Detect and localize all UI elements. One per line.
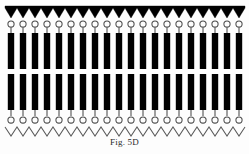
tail-bar xyxy=(128,33,134,69)
tail-bar xyxy=(188,33,194,69)
head-circle xyxy=(32,21,38,27)
head-circle xyxy=(152,117,158,123)
tail-bar xyxy=(92,33,98,69)
head-circle xyxy=(212,117,218,123)
tail-bar xyxy=(236,33,242,69)
tail-bar xyxy=(128,74,134,110)
tail-bar xyxy=(164,33,170,69)
tail-bar xyxy=(116,74,122,110)
tail-bar xyxy=(80,74,86,110)
tail-bar xyxy=(104,33,110,69)
head-circle xyxy=(116,117,122,123)
upper-bar-row xyxy=(8,33,242,69)
head-circle xyxy=(224,117,230,123)
tail-bar xyxy=(152,74,158,110)
bottom-zigzag-line xyxy=(5,127,245,136)
head-circle xyxy=(164,117,170,123)
top-circle-row xyxy=(8,21,242,27)
tail-bar xyxy=(68,33,74,69)
head-circle xyxy=(20,21,26,27)
head-circle xyxy=(116,21,122,27)
head-circle xyxy=(128,21,134,27)
top-stem-row xyxy=(11,27,239,33)
tail-bar xyxy=(176,33,182,69)
tail-bar xyxy=(8,74,14,110)
head-circle xyxy=(68,117,74,123)
lower-bar-row xyxy=(8,74,242,110)
figure-container: Fig. 5D xyxy=(0,0,249,154)
tail-bar xyxy=(68,74,74,110)
tail-bar xyxy=(92,74,98,110)
head-circle xyxy=(8,117,14,123)
head-circle xyxy=(140,21,146,27)
head-circle xyxy=(104,21,110,27)
head-circle xyxy=(44,117,50,123)
tail-bar xyxy=(140,33,146,69)
tail-bar xyxy=(224,74,230,110)
tail-bar xyxy=(212,33,218,69)
tail-bar xyxy=(20,74,26,110)
head-circle xyxy=(236,117,242,123)
head-circle xyxy=(164,21,170,27)
head-circle xyxy=(92,21,98,27)
tail-bar xyxy=(164,74,170,110)
tail-bar xyxy=(56,33,62,69)
tail-bar xyxy=(200,74,206,110)
tail-bar xyxy=(212,74,218,110)
tail-bar xyxy=(152,33,158,69)
tail-bar xyxy=(44,33,50,69)
tail-bar xyxy=(140,74,146,110)
tail-bar xyxy=(32,33,38,69)
head-circle xyxy=(236,21,242,27)
head-circle xyxy=(8,21,14,27)
tail-bar xyxy=(80,33,86,69)
head-circle xyxy=(56,117,62,123)
head-circle xyxy=(56,21,62,27)
tail-bar xyxy=(56,74,62,110)
top-serrated-band xyxy=(5,6,245,18)
tail-bar xyxy=(224,33,230,69)
head-circle xyxy=(224,21,230,27)
tail-bar xyxy=(32,74,38,110)
head-circle xyxy=(140,117,146,123)
head-circle xyxy=(68,21,74,27)
head-circle xyxy=(188,21,194,27)
head-circle xyxy=(200,117,206,123)
bottom-stem-row xyxy=(11,110,239,116)
head-circle xyxy=(92,117,98,123)
tail-bar xyxy=(8,33,14,69)
head-circle xyxy=(200,21,206,27)
tail-bar xyxy=(20,33,26,69)
bottom-circle-row xyxy=(8,117,242,123)
head-circle xyxy=(20,117,26,123)
head-circle xyxy=(44,21,50,27)
tail-bar xyxy=(116,33,122,69)
head-circle xyxy=(128,117,134,123)
head-circle xyxy=(212,21,218,27)
head-circle xyxy=(176,21,182,27)
tail-bar xyxy=(104,74,110,110)
head-circle xyxy=(32,117,38,123)
head-circle xyxy=(188,117,194,123)
tail-bar xyxy=(44,74,50,110)
tail-bar xyxy=(176,74,182,110)
head-circle xyxy=(104,117,110,123)
tail-bar xyxy=(188,74,194,110)
head-circle xyxy=(176,117,182,123)
head-circle xyxy=(80,117,86,123)
tail-bar xyxy=(236,74,242,110)
head-circle xyxy=(80,21,86,27)
figure-diagram xyxy=(0,0,249,154)
tail-bar xyxy=(200,33,206,69)
figure-caption: Fig. 5D xyxy=(0,136,249,148)
head-circle xyxy=(152,21,158,27)
